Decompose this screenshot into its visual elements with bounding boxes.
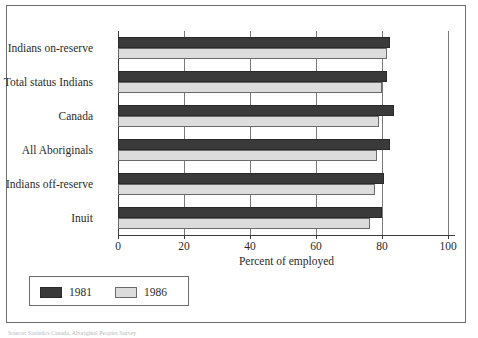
x-tick-80 (382, 235, 383, 239)
bar-1981 (118, 105, 394, 116)
gridline-100 (448, 31, 449, 235)
figure-frame: Percent of employed 1981 1986 0204060801… (6, 5, 466, 323)
x-tick-label-0: 0 (98, 240, 138, 252)
category-label: All Aboriginals (22, 144, 93, 156)
bar-1981 (118, 71, 387, 82)
legend-entry-1981: 1981 (40, 285, 92, 299)
x-tick-0 (118, 235, 119, 239)
bar-group (118, 133, 448, 167)
x-tick-label-80: 80 (362, 240, 402, 252)
x-tick-label-20: 20 (164, 240, 204, 252)
legend-entry-1986: 1986 (115, 285, 167, 299)
bar-group (118, 65, 448, 99)
x-axis-title: Percent of employed (118, 255, 455, 267)
bar-group (118, 201, 448, 235)
legend-label-1986: 1986 (144, 286, 167, 298)
bar-1981 (118, 207, 382, 218)
chart-legend: 1981 1986 (29, 276, 189, 306)
legend-swatch-1986-icon (115, 287, 137, 298)
x-tick-100 (448, 235, 449, 239)
bar-1986 (118, 82, 382, 93)
bar-group (118, 99, 448, 133)
source-caption: Source: Statistics Canada, Aboriginal Pe… (8, 330, 328, 337)
bar-1986 (118, 116, 379, 127)
category-label: Inuit (71, 212, 93, 224)
plot-area (118, 31, 448, 235)
category-label: Canada (59, 110, 93, 122)
bar-1986 (118, 150, 377, 161)
legend-label-1981: 1981 (69, 286, 92, 298)
x-tick-60 (316, 235, 317, 239)
bar-1986 (118, 184, 375, 195)
bar-1981 (118, 37, 390, 48)
category-label: Indians off-reserve (6, 178, 93, 190)
x-tick-40 (250, 235, 251, 239)
x-tick-20 (184, 235, 185, 239)
legend-swatch-1981-icon (40, 287, 62, 298)
x-tick-label-100: 100 (428, 240, 468, 252)
category-label: Total status Indians (4, 76, 93, 88)
x-tick-label-60: 60 (296, 240, 336, 252)
bar-1981 (118, 173, 384, 184)
x-tick-label-40: 40 (230, 240, 270, 252)
bar-1986 (118, 218, 370, 229)
x-axis-line (118, 235, 455, 236)
bar-group (118, 167, 448, 201)
bar-group (118, 31, 448, 65)
bar-1986 (118, 48, 387, 59)
bar-1981 (118, 139, 390, 150)
category-label: Indians on-reserve (8, 42, 93, 54)
